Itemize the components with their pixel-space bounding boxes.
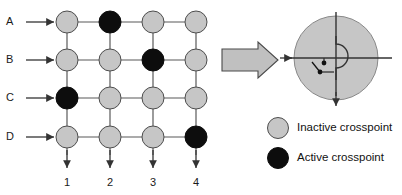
crosspoint-node-A4[interactable] <box>185 11 207 33</box>
crosspoint-matrix-figure <box>0 0 402 195</box>
legend-swatches <box>268 118 289 169</box>
crosspoint-node-C2[interactable] <box>99 87 121 109</box>
crosspoint-detail <box>280 12 392 106</box>
crosspoint-node-A3[interactable] <box>142 11 164 33</box>
crosspoint-node-D4[interactable] <box>185 126 207 148</box>
crosspoint-node-B3[interactable] <box>142 49 164 71</box>
row-label-B: B <box>6 54 13 65</box>
column-label-4: 4 <box>193 177 199 188</box>
column-label-2: 2 <box>107 177 113 188</box>
matrix-vertical-wires <box>67 16 196 155</box>
column-label-3: 3 <box>150 177 156 188</box>
crosspoint-node-B4[interactable] <box>185 49 207 71</box>
row-label-A: A <box>6 16 13 27</box>
legend-label-inactive: Inactive crosspoint <box>297 122 392 134</box>
figure-canvas: A B C D 1 2 3 4 Inactive crosspoint Acti… <box>0 0 402 195</box>
block-arrow <box>222 42 278 78</box>
crosspoint-node-A1[interactable] <box>56 11 78 33</box>
crosspoint-node-C3[interactable] <box>142 87 164 109</box>
block-arrow-shape <box>222 42 278 78</box>
crosspoint-detail-contact-dot-upper <box>322 61 327 66</box>
column-label-1: 1 <box>64 177 70 188</box>
legend-label-active: Active crosspoint <box>297 152 384 164</box>
row-input-arrows <box>26 22 54 137</box>
crosspoint-node-C1[interactable] <box>56 87 78 109</box>
crosspoint-node-B2[interactable] <box>99 49 121 71</box>
column-output-arrows <box>67 150 196 168</box>
crosspoint-detail-contact-dot-lower <box>318 70 323 75</box>
crosspoint-nodes <box>56 11 207 148</box>
matrix-horizontal-wires <box>67 22 202 137</box>
row-label-C: C <box>6 92 14 103</box>
crosspoint-node-D1[interactable] <box>56 126 78 148</box>
crosspoint-node-B1[interactable] <box>56 49 78 71</box>
legend-swatch-active <box>268 148 289 169</box>
crosspoint-node-C4[interactable] <box>185 87 207 109</box>
crosspoint-node-D3[interactable] <box>142 126 164 148</box>
legend-swatch-inactive <box>268 118 289 139</box>
row-label-D: D <box>6 131 14 142</box>
crosspoint-node-D2[interactable] <box>99 126 121 148</box>
crosspoint-node-A2[interactable] <box>99 11 121 33</box>
